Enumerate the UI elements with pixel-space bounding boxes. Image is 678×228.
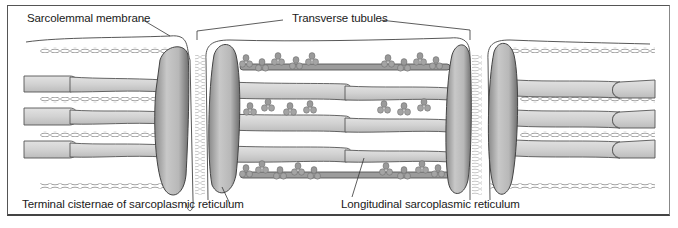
label-longitudinal-sr: Longitudinal sarcoplasmic reticulum [341,198,520,210]
cisterna-left-2 [209,44,240,192]
cisterna-right-2 [488,43,517,194]
right-longitudinal-tubules [515,80,655,158]
cisterna-left-1 [155,47,189,195]
label-terminal-cisternae: Terminal cisternae of sarcoplasmic retic… [22,198,244,210]
label-sarcolemmal-membrane: Sarcolemmal membrane [27,12,150,24]
left-longitudinal-tubules [24,76,165,158]
muscle-fiber-illustration [0,0,678,228]
cisterna-right-1 [446,45,471,194]
label-transverse-tubules: Transverse tubules [292,12,388,24]
